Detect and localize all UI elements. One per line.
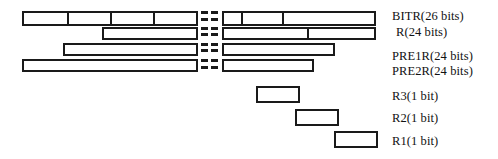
break-mark-dash [211, 18, 218, 21]
break-mark-dash [201, 66, 208, 69]
bitr-bar-right-segment [222, 11, 376, 26]
field-label-r2: R2(1 bit) [392, 111, 438, 125]
break-mark-dash [201, 27, 208, 30]
bitr-bar-left-segment [22, 11, 198, 26]
break-mark-dash [201, 11, 208, 14]
r2-bit-box [295, 109, 339, 126]
break-mark-dash [201, 59, 208, 62]
bit-divider [67, 13, 69, 24]
break-mark-dash [211, 11, 218, 14]
break-mark-dash [211, 43, 218, 46]
bit-divider [282, 13, 284, 24]
field-label-r1: R1(1 bit) [392, 134, 438, 148]
break-mark-dash [211, 33, 218, 36]
break-mark-dash [211, 59, 218, 62]
field-label-r3: R3(1 bit) [392, 89, 438, 103]
r-bar-right-segment [222, 27, 376, 40]
bit-divider [241, 13, 243, 24]
bit-field-diagram: BITR(26 bits)R(24 bits)PRE1R(24 bits)PRE… [0, 0, 498, 159]
bit-divider [110, 13, 112, 24]
field-label-r: R(24 bits) [396, 25, 447, 39]
field-label-bitr: BITR(26 bits) [392, 9, 464, 23]
break-mark-dash [211, 27, 218, 30]
field-label-pre1r: PRE1R(24 bits) [392, 49, 473, 63]
break-mark-dash [211, 49, 218, 52]
field-label-pre2r: PRE2R(24 bits) [392, 64, 473, 78]
break-mark-dash [201, 43, 208, 46]
pre2r-bar-left-segment [22, 59, 198, 72]
break-mark-dash [201, 18, 208, 21]
pre1r-bar-left-segment [63, 43, 198, 56]
pre1r-bar-right-segment [222, 43, 335, 56]
break-mark-dash [211, 66, 218, 69]
r3-bit-box [256, 86, 300, 103]
bit-divider [153, 13, 155, 24]
break-mark-dash [201, 49, 208, 52]
pre2r-bar-right-segment [222, 59, 314, 72]
bit-divider [307, 29, 309, 38]
break-mark-dash [201, 33, 208, 36]
r-bar-left-segment [102, 27, 198, 40]
r1-bit-box [334, 131, 378, 148]
